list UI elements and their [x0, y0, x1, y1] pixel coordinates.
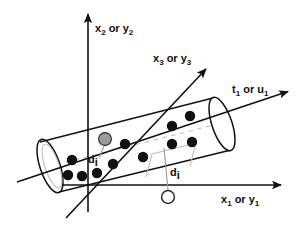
axis-label-x2: x2 or y2: [95, 22, 134, 37]
data-point: [67, 155, 77, 165]
axis-label-x3: x3 or y3: [153, 52, 192, 67]
data-point: [77, 171, 87, 181]
data-point: [63, 170, 73, 180]
data-point: [120, 139, 130, 149]
axis-label-t1: t1 or u1: [232, 83, 269, 98]
highlighted-data-point: [99, 133, 112, 146]
projected-data-point: [162, 191, 175, 204]
data-point: [108, 159, 118, 169]
data-point: [185, 111, 195, 121]
cylinder-shape: [32, 94, 241, 195]
figure-root: x2 or y2 x3 or y3 t1 or u1 x1 or y1 di d…: [0, 0, 304, 225]
data-point: [92, 168, 102, 178]
axis-label-x1: x1 or y1: [221, 193, 260, 208]
distance-label-lower: di: [170, 166, 180, 181]
data-point: [187, 137, 197, 147]
diagram-canvas: x2 or y2 x3 or y3 t1 or u1 x1 or y1 di d…: [0, 0, 304, 225]
data-point: [167, 139, 177, 149]
data-point: [138, 152, 148, 162]
data-point: [167, 121, 177, 131]
